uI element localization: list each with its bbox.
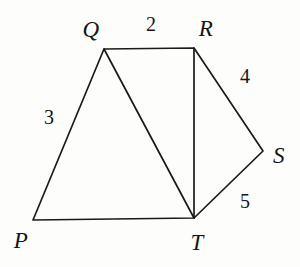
geometry-figure: P Q R S T 2 3 4 5 (0, 0, 300, 267)
edge-QT-diagonal (104, 49, 194, 218)
edge-length-label-RS: 4 (240, 66, 250, 86)
figure-canvas (0, 0, 300, 267)
vertex-label-R: R (199, 17, 213, 40)
edge-outline-PQRST (33, 48, 263, 220)
edge-length-label-ST: 5 (240, 191, 250, 211)
edge-length-label-QR: 2 (146, 14, 156, 34)
vertex-label-Q: Q (83, 18, 100, 41)
vertex-label-S: S (273, 144, 285, 167)
vertex-label-P: P (14, 229, 28, 252)
edge-length-label-PQ: 3 (44, 107, 54, 127)
vertex-label-T: T (190, 231, 203, 254)
